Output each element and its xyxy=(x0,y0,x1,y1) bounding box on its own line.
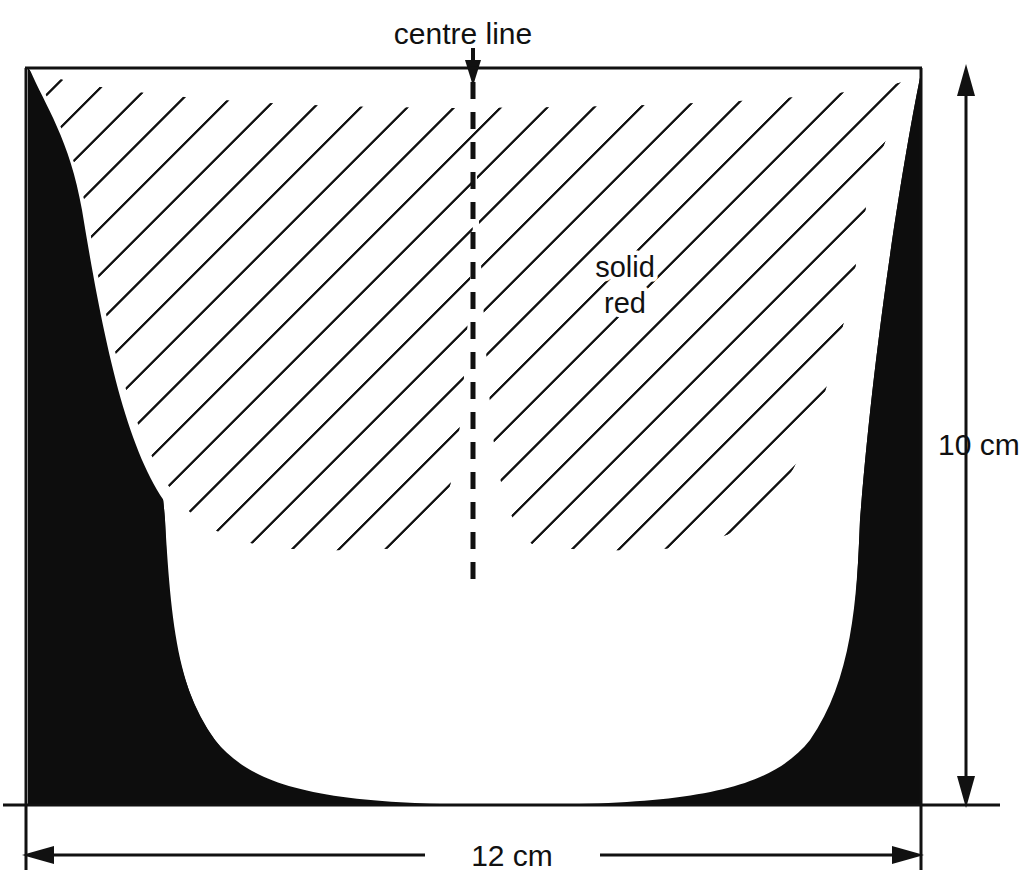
core-outline xyxy=(35,72,918,550)
height-dimension: 10 cm xyxy=(938,64,1020,808)
arrow-right-icon xyxy=(892,846,924,864)
technical-drawing-svg: 10 cm 12 cm centre line solid solid red … xyxy=(0,0,1025,882)
height-dimension-label: 10 cm xyxy=(938,428,1020,461)
arrow-down-icon xyxy=(957,776,975,808)
hatched-core-region xyxy=(35,72,918,550)
solid-red-label-line2: red xyxy=(604,287,646,319)
arrow-up-icon xyxy=(957,64,975,96)
width-dimension: 12 cm xyxy=(22,839,924,872)
width-dimension-label: 12 cm xyxy=(471,839,553,872)
diagram-root: 10 cm 12 cm centre line solid solid red … xyxy=(0,0,1025,882)
centre-line-label: centre line xyxy=(394,17,532,50)
solid-red-label-line1: solid xyxy=(595,251,655,283)
